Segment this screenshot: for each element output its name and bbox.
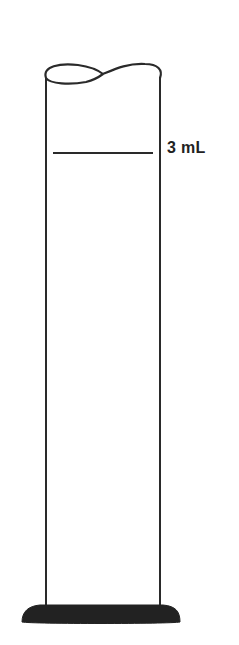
cylinder-base bbox=[22, 605, 180, 624]
graduation-label: 3 mL bbox=[167, 139, 206, 157]
graduated-cylinder bbox=[0, 0, 239, 645]
cylinder-rim bbox=[45, 64, 160, 84]
